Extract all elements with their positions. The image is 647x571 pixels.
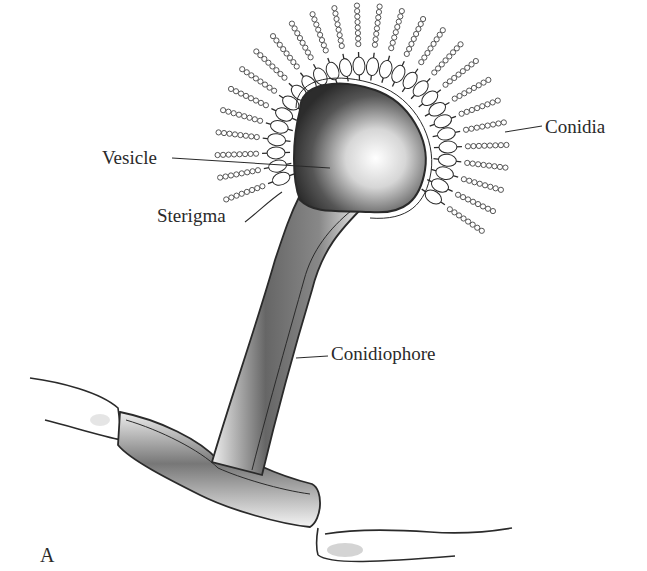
hypha-shading-right bbox=[327, 543, 363, 557]
label-conidia: Conidia bbox=[545, 117, 605, 136]
leader-conidia bbox=[505, 126, 542, 132]
label-vesicle: Vesicle bbox=[102, 148, 157, 167]
foot-cell bbox=[118, 412, 320, 527]
leader-conidiophore bbox=[296, 356, 328, 358]
label-sterigma: Sterigma bbox=[157, 206, 226, 225]
vesicle bbox=[294, 78, 432, 218]
panel-label: A bbox=[40, 545, 54, 565]
conidiophore-diagram bbox=[0, 0, 647, 571]
leader-sterigma bbox=[245, 192, 282, 222]
label-conidiophore: Conidiophore bbox=[331, 344, 436, 363]
hypha-shading-left bbox=[90, 414, 110, 426]
conidiophore-stalk bbox=[212, 195, 365, 475]
